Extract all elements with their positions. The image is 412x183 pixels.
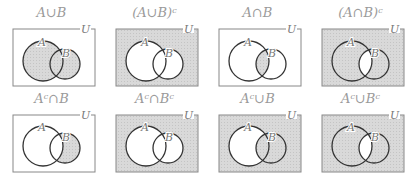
set-b-label: B xyxy=(267,131,276,144)
venn-diagram: A∩B U A B xyxy=(206,0,309,91)
set-a-label: A xyxy=(140,36,149,49)
set-a-label: A xyxy=(37,36,46,49)
universe-label: U xyxy=(184,23,194,36)
set-b-label: B xyxy=(267,47,276,60)
shaded-region xyxy=(23,41,80,81)
set-a-label: A xyxy=(243,36,252,49)
set-a-label: A xyxy=(140,121,149,134)
venn-diagram: A∪B U A B xyxy=(0,0,103,91)
universe-label: U xyxy=(81,109,91,122)
set-a-label: A xyxy=(37,121,46,134)
venn-diagram: (A∪B)ᶜ U A B xyxy=(103,0,206,91)
universe-label: U xyxy=(287,109,297,122)
set-b-label: B xyxy=(164,131,173,144)
universe-label: U xyxy=(390,109,400,122)
venn-diagram: (A∩B)ᶜ U A B xyxy=(309,0,412,91)
set-b-label: B xyxy=(370,47,379,60)
set-a-label: A xyxy=(346,36,355,49)
venn-diagram: Aᶜ∩B U A B xyxy=(0,86,103,177)
set-a-label: A xyxy=(346,121,355,134)
set-a-label: A xyxy=(243,121,252,134)
venn-diagram: Aᶜ∩Bᶜ U A B xyxy=(103,86,206,177)
set-b-label: B xyxy=(61,47,70,60)
set-b-label: B xyxy=(164,47,173,60)
set-b-label: B xyxy=(61,131,70,144)
universe-label: U xyxy=(390,23,400,36)
venn-diagram: Aᶜ∪Bᶜ U A B xyxy=(309,86,412,177)
universe-label: U xyxy=(184,109,194,122)
venn-diagram: Aᶜ∪B U A B xyxy=(206,86,309,177)
universe-label: U xyxy=(81,23,91,36)
universe-label: U xyxy=(287,23,297,36)
set-b-label: B xyxy=(370,131,379,144)
